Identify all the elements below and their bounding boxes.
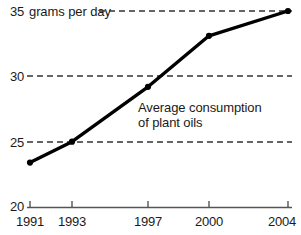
x-axis [27, 201, 292, 208]
data-point-2000 [206, 33, 212, 39]
series-line-plant-oils [30, 11, 288, 163]
data-point-1993 [69, 139, 75, 145]
data-point-2004 [285, 8, 291, 14]
chart-plot-area [0, 0, 301, 235]
data-point-1997 [145, 84, 151, 90]
plant-oil-consumption-chart: 35 30 25 20 grams per day 1991 1993 1997… [0, 0, 301, 235]
data-point-1991 [27, 160, 33, 166]
